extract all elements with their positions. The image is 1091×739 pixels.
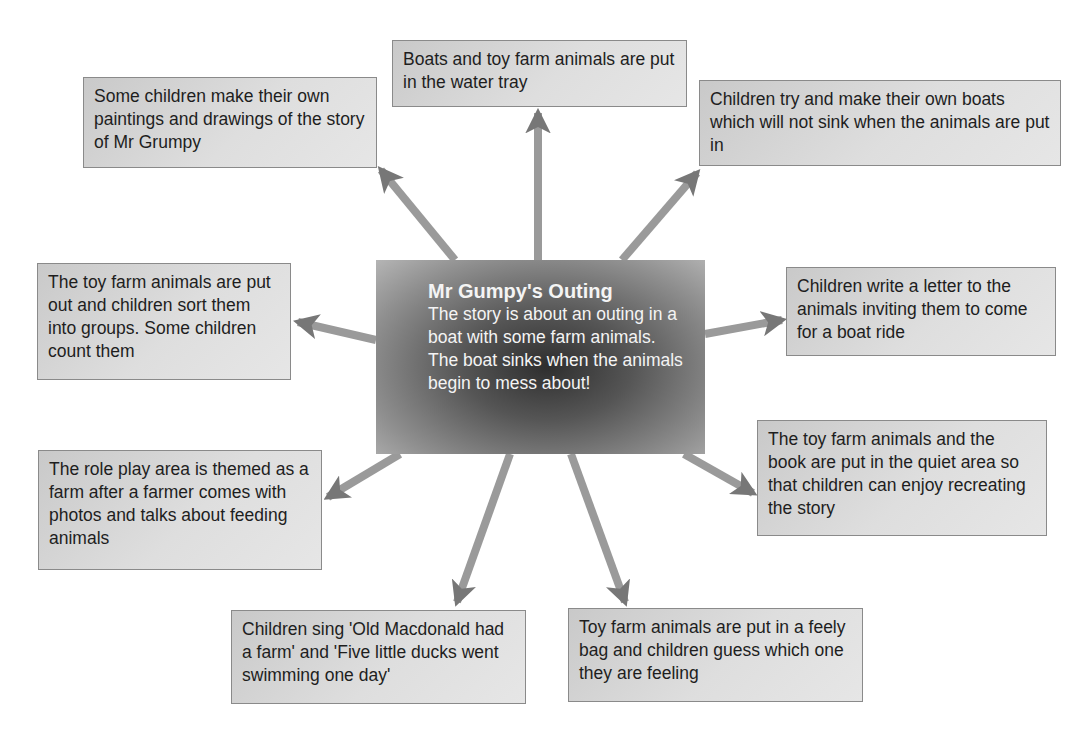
arrow-to-sort-count xyxy=(298,322,376,340)
activity-box-make-boats: Children try and make their own boats wh… xyxy=(699,80,1061,166)
activity-box-write-letter: Children write a letter to the animals i… xyxy=(786,267,1056,356)
arrow-to-write-letter xyxy=(705,320,782,334)
activity-box-sort-count: The toy farm animals are put out and chi… xyxy=(37,263,291,380)
central-topic-title: Mr Gumpy's Outing xyxy=(428,280,685,303)
activity-box-sing-songs: Children sing 'Old Macdonald had a farm'… xyxy=(231,610,526,704)
arrow-to-quiet-area xyxy=(684,454,753,493)
activity-box-feely-bag: Toy farm animals are put in a feely bag … xyxy=(568,608,863,702)
central-topic-description: The story is about an outing in a boat w… xyxy=(428,303,685,395)
activity-box-quiet-area: The toy farm animals and the book are pu… xyxy=(757,420,1047,536)
activity-box-role-play: The role play area is themed as a farm a… xyxy=(38,450,322,570)
arrow-to-paintings xyxy=(381,170,455,260)
arrow-to-make-boats xyxy=(622,173,697,260)
activity-box-water-tray: Boats and toy farm animals are put in th… xyxy=(392,40,687,107)
activity-box-paintings: Some children make their own paintings a… xyxy=(83,77,377,168)
arrow-to-sing-songs xyxy=(457,454,510,602)
arrow-to-role-play xyxy=(328,454,400,497)
central-topic-box: Mr Gumpy's Outing The story is about an … xyxy=(376,260,705,454)
arrow-to-feely-bag xyxy=(571,454,625,602)
